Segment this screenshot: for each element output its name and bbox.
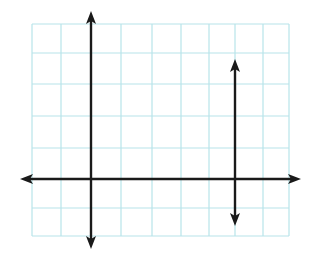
coordinate-grid-diagram bbox=[0, 0, 310, 264]
axis-lines bbox=[20, 11, 301, 249]
left-vertical-axis bbox=[86, 11, 96, 249]
grid-canvas bbox=[0, 0, 310, 264]
horizontal-axis bbox=[20, 174, 301, 184]
grid-lines bbox=[32, 24, 289, 236]
